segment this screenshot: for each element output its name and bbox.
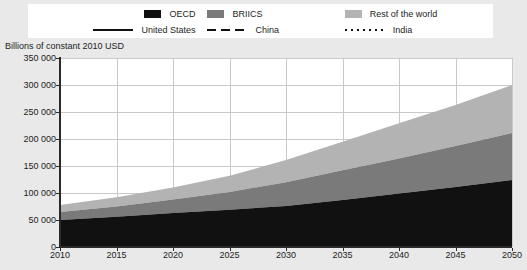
legend-line-solid-icon xyxy=(93,26,133,34)
x-tick-label: 2010 xyxy=(37,251,83,260)
y-tick-mark xyxy=(56,193,60,194)
x-tick-mark xyxy=(230,248,231,251)
chart-legend: OECD BRIICS Rest of the world United Sta… xyxy=(28,4,493,38)
x-tick-mark xyxy=(117,248,118,251)
y-tick-mark xyxy=(56,139,60,140)
legend-swatch-oecd xyxy=(144,10,161,18)
y-tick-mark xyxy=(56,220,60,221)
legend-swatch-briics xyxy=(207,10,224,18)
x-tick-mark xyxy=(343,248,344,251)
x-tick-mark xyxy=(286,248,287,251)
x-tick-mark xyxy=(399,248,400,251)
legend-label-china: China xyxy=(255,26,279,35)
y-tick-mark xyxy=(56,85,60,86)
y-tick-label: 200 000 xyxy=(2,135,56,144)
y-tick-mark xyxy=(56,166,60,167)
y-tick-label: 250 000 xyxy=(2,108,56,117)
x-tick-mark xyxy=(512,248,513,251)
legend-row-areas: OECD BRIICS Rest of the world xyxy=(28,6,493,22)
legend-item-india[interactable]: India xyxy=(337,22,493,38)
plot-area xyxy=(60,58,512,247)
x-tick-mark xyxy=(173,248,174,251)
legend-item-china[interactable]: China xyxy=(195,22,336,38)
x-tick-label: 2015 xyxy=(94,251,140,260)
stacked-areas xyxy=(60,58,512,247)
legend-line-dashed-icon xyxy=(207,26,247,34)
y-tick-label: 350 000 xyxy=(2,54,56,63)
y-axis-tick-labels: 350 000300 000250 000200 000150 000100 0… xyxy=(0,0,56,270)
legend-label-oecd: OECD xyxy=(169,10,195,19)
legend-item-briics[interactable]: BRIICS xyxy=(195,6,336,22)
legend-label-united-states: United States xyxy=(141,26,195,35)
legend-label-briics: BRIICS xyxy=(232,10,262,19)
x-tick-label: 2040 xyxy=(376,251,422,260)
legend-label-rest-of-world: Rest of the world xyxy=(370,10,438,19)
y-tick-label: 100 000 xyxy=(2,189,56,198)
legend-label-india: India xyxy=(393,26,413,35)
x-tick-mark xyxy=(60,248,61,251)
y-tick-mark xyxy=(56,112,60,113)
legend-swatch-rest-of-world xyxy=(345,10,362,18)
x-tick-label: 2020 xyxy=(150,251,196,260)
y-tick-mark xyxy=(56,58,60,59)
x-tick-mark xyxy=(456,248,457,251)
y-tick-label: 150 000 xyxy=(2,162,56,171)
x-tick-label: 2050 xyxy=(489,251,527,260)
legend-item-rest-of-world[interactable]: Rest of the world xyxy=(337,6,493,22)
legend-row-lines: United States China India xyxy=(28,22,493,38)
y-tick-label: 300 000 xyxy=(2,81,56,90)
y-tick-label: 50 000 xyxy=(2,216,56,225)
x-tick-label: 2035 xyxy=(320,251,366,260)
x-tick-label: 2045 xyxy=(433,251,479,260)
x-tick-label: 2025 xyxy=(207,251,253,260)
gridline-x xyxy=(512,58,513,247)
x-tick-label: 2030 xyxy=(263,251,309,260)
area-svg xyxy=(60,58,512,247)
legend-line-dotted-icon xyxy=(345,26,385,34)
x-axis-tick-labels: 201020152020202520302035204020452050 xyxy=(0,251,521,267)
